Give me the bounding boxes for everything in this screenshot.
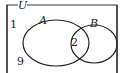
universe-label: U — [18, 0, 28, 12]
outside-element-2: 9 — [17, 55, 24, 68]
venn-diagram: U A B 1 9 2 — [0, 0, 124, 73]
set-b-label: B — [89, 17, 98, 30]
set-a-label: A — [38, 14, 47, 27]
intersection-element: 2 — [71, 36, 78, 49]
outside-element-1: 1 — [10, 18, 17, 31]
